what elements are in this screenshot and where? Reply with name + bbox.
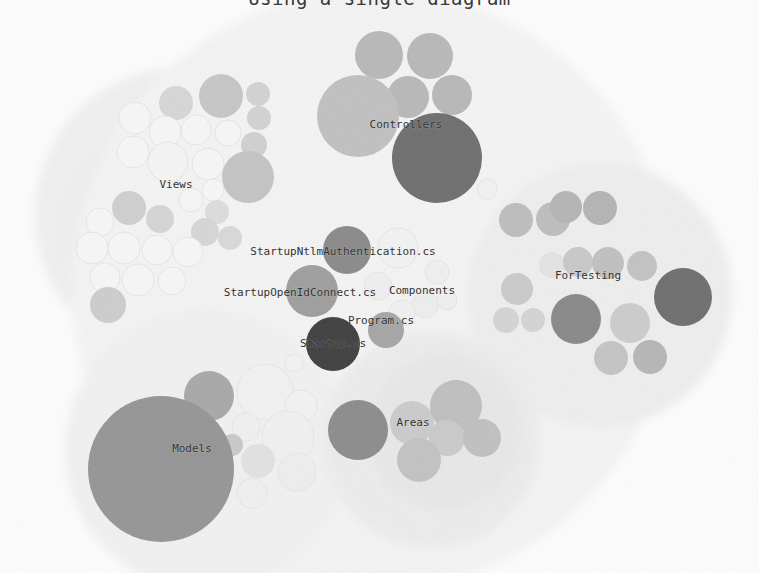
bubble-chart-page: ControllersViewsStartupNtlmAuthenticatio… (0, 0, 759, 573)
paper-grain-overlay (0, 0, 759, 573)
page-title-sliver: Using a single diagram (0, 0, 759, 9)
visualization-surface[interactable]: ControllersViewsStartupNtlmAuthenticatio… (0, 0, 759, 573)
circle-packing-svg[interactable]: ControllersViewsStartupNtlmAuthenticatio… (0, 0, 759, 573)
page-title-text: Using a single diagram (0, 0, 759, 8)
